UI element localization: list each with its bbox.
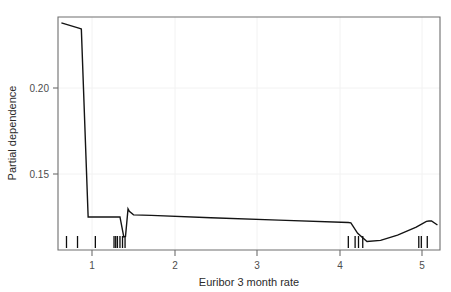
axes-frame <box>58 17 440 250</box>
grid-lines <box>58 17 440 250</box>
plot-box-border <box>58 17 440 250</box>
partial-dependence-line <box>61 23 437 242</box>
x-tick-label-1: 1 <box>89 260 95 271</box>
x-tick-label-5: 5 <box>419 260 425 271</box>
x-tick-label-4: 4 <box>337 260 343 271</box>
x-axis-title: Euribor 3 month rate <box>199 276 299 288</box>
x-axis-ticks <box>92 250 422 256</box>
rug-marks-group <box>66 236 427 248</box>
partial-dependence-chart: 0.20 0.15 1 2 3 4 5 Euribor 3 month rate… <box>0 0 451 292</box>
x-tick-label-3: 3 <box>254 260 260 271</box>
y-axis-ticks <box>53 88 58 174</box>
y-axis-title: Partial dependence <box>6 86 18 181</box>
y-tick-label-015: 0.15 <box>30 169 50 180</box>
y-tick-label-020: 0.20 <box>30 83 50 94</box>
chart-canvas: 0.20 0.15 1 2 3 4 5 Euribor 3 month rate… <box>0 0 451 292</box>
x-tick-label-2: 2 <box>172 260 178 271</box>
